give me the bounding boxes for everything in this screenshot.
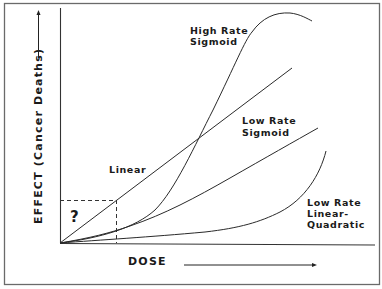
- question-mark: ?: [70, 208, 79, 226]
- x-axis-label: DOSE: [128, 255, 167, 268]
- dose-response-diagram: EFFECT (Cancer Deaths) DOSE ? Linear Hig…: [0, 0, 382, 289]
- y-axis-label: EFFECT (Cancer Deaths): [32, 48, 45, 224]
- label-low-sigmoid-line1: Low Rate: [242, 115, 296, 126]
- label-low-sigmoid-line2: Sigmoid: [242, 127, 290, 138]
- label-lq-line3: Quadratic: [307, 219, 365, 230]
- label-high-rate-line2: Sigmoid: [190, 36, 238, 47]
- curve-linear: [60, 68, 292, 243]
- label-linear: Linear: [109, 164, 146, 175]
- label-lq-line2: Linear-: [307, 208, 349, 219]
- curve-low-rate-linear-quadratic: [60, 151, 326, 243]
- x-arrow-icon: [312, 263, 317, 267]
- y-arrow-icon: [37, 10, 41, 15]
- x-axis: [60, 244, 375, 246]
- label-lq-line1: Low Rate: [307, 197, 361, 208]
- label-high-rate-line1: High Rate: [190, 25, 248, 36]
